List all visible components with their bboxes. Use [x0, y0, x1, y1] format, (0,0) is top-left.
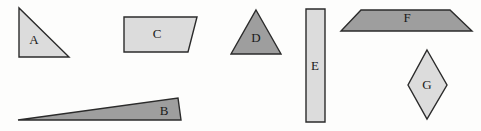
shape-e-label: E: [311, 58, 319, 73]
shapes-canvas: A B C D E F G: [0, 0, 481, 131]
shape-f-label: F: [403, 10, 410, 25]
shape-a-label: A: [29, 32, 39, 47]
shape-c-label: C: [153, 26, 162, 41]
shape-d-label: D: [251, 30, 260, 45]
geometric-shapes-figure: A B C D E F G: [0, 0, 481, 131]
shape-b-label: B: [160, 103, 169, 118]
shape-group-f: F: [341, 10, 472, 31]
shape-group-e: E: [306, 9, 325, 122]
shape-g-label: G: [422, 77, 431, 92]
shape-group-c: C: [124, 17, 197, 52]
